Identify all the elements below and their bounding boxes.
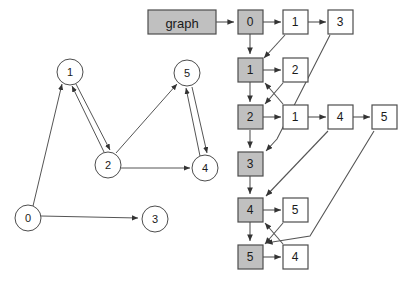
adjacency-index-cell-1[interactable]: 1 [238, 58, 263, 82]
graph-edges [33, 84, 207, 218]
neighbor-cell-label: 1 [292, 110, 299, 124]
graph-node-label: 0 [25, 212, 31, 224]
adjacency-root-label: graph [165, 16, 198, 31]
adjacency-neighbor-cell-r2-n2[interactable]: 5 [372, 105, 397, 129]
graph-edge-0-3 [41, 216, 138, 218]
graph-edge-2-5 [116, 84, 177, 153]
adjacency-backrefs [264, 35, 374, 244]
index-cell-label: 4 [247, 203, 254, 217]
graph-edge-0-1 [33, 84, 62, 206]
neighbor-cell-label: 5 [292, 203, 299, 217]
neighbor-cell-label: 2 [292, 63, 299, 77]
adjacency-root[interactable]: graph [148, 10, 216, 34]
adjacency-neighbor-cell-r2-n0[interactable]: 1 [283, 105, 308, 129]
adjacency-index-cell-5[interactable]: 5 [238, 245, 263, 269]
graph-node-1[interactable]: 1 [57, 59, 83, 85]
index-cell-label: 1 [247, 63, 254, 77]
adjacency-neighbor-cell-r0-n1[interactable]: 3 [328, 10, 353, 34]
index-cell-label: 5 [247, 250, 254, 264]
adjacency-index-cell-0[interactable]: 0 [238, 10, 263, 34]
graph-node-5[interactable]: 5 [174, 60, 200, 86]
index-cell-label: 0 [247, 15, 254, 29]
adjacency-row-links [263, 22, 370, 257]
graph-node-label: 2 [105, 159, 111, 171]
backref-r0c3-to-row3 [266, 35, 330, 151]
adjacency-neighbor-cell-r5-n0[interactable]: 4 [283, 245, 308, 269]
backref-r0c1-to-row1 [264, 35, 285, 58]
index-cell-label: 2 [247, 110, 254, 124]
neighbor-cell-label: 1 [292, 15, 299, 29]
adjacency-index-cell-3[interactable]: 3 [238, 152, 263, 176]
graph-node-4[interactable]: 4 [192, 155, 218, 181]
graph-node-label: 1 [67, 66, 73, 78]
graph-node-label: 4 [202, 162, 208, 174]
graph-node-3[interactable]: 3 [142, 206, 168, 232]
neighbor-cell-label: 4 [337, 110, 344, 124]
adjacency-neighbor-cell-r2-n1[interactable]: 4 [328, 105, 353, 129]
adjacency-neighbor-cell-r4-n0[interactable]: 5 [283, 198, 308, 222]
graph-edge-1-2 [76, 84, 110, 150]
index-cell-label: 3 [247, 157, 254, 171]
graph-node-label: 3 [152, 213, 158, 225]
diagram-svg: 0 1 2 3 4 5 graph [0, 0, 405, 282]
neighbor-cell-label: 4 [292, 250, 299, 264]
adjacency-neighbor-cell-r0-n0[interactable]: 1 [283, 10, 308, 34]
backref-r2c5-to-row5 [266, 131, 374, 243]
adjacency-index-cell-2[interactable]: 2 [238, 105, 263, 129]
graph-node-2[interactable]: 2 [95, 152, 121, 178]
graph-edge-4-5 [186, 88, 200, 156]
graph-edge-5-4 [192, 87, 207, 153]
graph-edge-2-1 [72, 86, 104, 152]
adjacency-index-cell-4[interactable]: 4 [238, 198, 263, 222]
graph-node-label: 5 [184, 67, 190, 79]
adjacency-neighbor-cell-r1-n0[interactable]: 2 [283, 58, 308, 82]
graph-node-0[interactable]: 0 [15, 205, 41, 231]
neighbor-cell-label: 5 [381, 110, 388, 124]
diagram-canvas: 0 1 2 3 4 5 graph [0, 0, 405, 282]
neighbor-cell-label: 3 [337, 15, 344, 29]
